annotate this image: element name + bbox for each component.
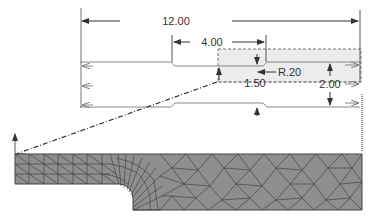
specimen-diagram: 12.00 4.00 R.20 1.50 2.00 (0, 0, 372, 218)
left-load-arrows (83, 66, 93, 105)
projection-line-left (16, 82, 217, 154)
label-gauge-length: 4.00 (201, 36, 222, 48)
label-half-width: 1.50 (244, 77, 265, 89)
dimension-overall-length: 12.00 (82, 15, 358, 27)
label-full-width: 2.00 (319, 78, 340, 90)
fe-mesh (15, 154, 362, 210)
label-overall-length: 12.00 (162, 15, 190, 27)
label-fillet-radius: R.20 (278, 66, 301, 78)
